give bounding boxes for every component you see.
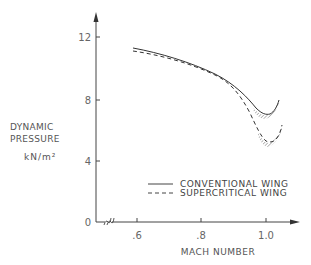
x-tick-1.0: 1.0 [258,230,274,241]
legend-supercritical-wing: SUPERCRITICAL WING [180,188,287,198]
y-tick-4: 4 [85,156,91,167]
legend: CONVENTIONAL WING SUPERCRITICAL WING [148,179,288,198]
y-tick-8: 8 [85,95,91,106]
conventional-wing-curve [133,48,279,114]
supercritical-wing-curve [133,51,282,142]
x-axis-label: MACH NUMBER [181,247,255,257]
y-axis: 12 8 4 0 [78,12,100,228]
y-tick-0: 0 [85,217,91,228]
y-tick-12: 12 [78,32,91,43]
x-axis-arrow-icon [290,220,300,225]
x-tick-0.8: .8 [196,230,206,241]
y-axis-arrow-icon [94,12,99,22]
x-axis: .6 .8 1.0 MACH NUMBER [96,218,300,257]
x-tick-0.6: .6 [132,230,142,241]
chart-plot: 12 8 4 0 .6 .8 1.0 MACH NUMBER CONVENTIO… [0,0,311,265]
